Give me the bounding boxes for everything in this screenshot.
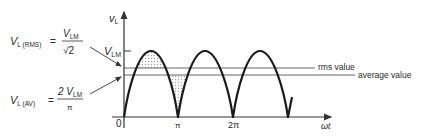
x-axis-label: ωt [321,121,331,131]
average-formula: VL (AV) = 2 VLM π [10,86,83,112]
svg-text:π: π [67,103,73,112]
tick-pi: π [175,121,181,130]
avg-pointer-arrow [90,77,121,94]
svg-text:=: = [48,95,54,106]
average-value-label: average value [358,70,412,80]
svg-text:=: = [50,36,56,47]
svg-text:VL (AV): VL (AV) [10,94,35,108]
svg-text:2 VLM: 2 VLM [57,86,82,98]
rectifier-waveform-diagram: vL VLM 0 π 2π ωt rms value average value… [0,0,423,138]
origin-label: 0 [116,118,122,129]
svg-text:VL (RMS): VL (RMS) [10,35,41,49]
tick-2pi: 2π [228,120,239,130]
svg-text:√2: √2 [63,45,74,56]
rms-value-label: rms value [318,62,355,72]
peak-label: VLM [104,45,121,58]
y-axis-label: vL [109,12,119,25]
rms-formula: VL (RMS) = VLM √2 [10,28,83,56]
svg-text:VLM: VLM [63,28,79,40]
